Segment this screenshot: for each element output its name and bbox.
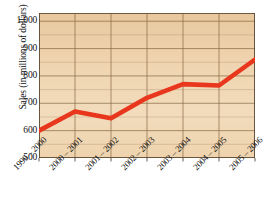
y-axis: Sales (in millions of dollars) 500600700… [0, 0, 37, 210]
plot-svg [39, 13, 255, 158]
y-tick-label: 500 [3, 153, 37, 163]
plot-area [39, 13, 255, 158]
y-tick-label: 800 [3, 71, 37, 81]
y-tick-label: 700 [3, 98, 37, 108]
line-chart: Sales (in millions of dollars) 500600700… [0, 0, 267, 210]
y-tick-label: 900 [3, 44, 37, 54]
y-tick-label: 600 [3, 126, 37, 136]
y-tick-label: 1,000 [3, 16, 37, 26]
